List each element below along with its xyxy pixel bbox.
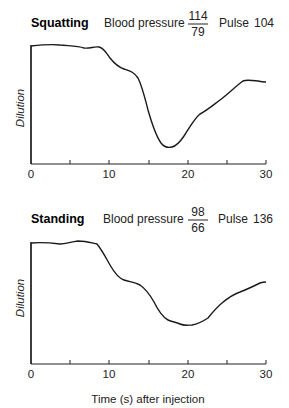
- bp-label: Blood pressure: [104, 16, 185, 30]
- dilution-curve-standing: [31, 241, 266, 364]
- x-ticks: [70, 360, 266, 364]
- panel-title: Standing: [31, 212, 84, 226]
- x-axis-label: Time (s) after injection: [91, 393, 204, 405]
- panel-squatting: Squatting Blood pressure 114 79 Pulse 10…: [14, 9, 274, 180]
- x-ticks: [70, 160, 266, 164]
- bp-systolic: 114: [188, 9, 207, 23]
- tick-label: 0: [28, 368, 34, 380]
- tick-label: 0: [28, 168, 34, 180]
- tick-label: 20: [182, 368, 195, 380]
- pulse-label: Pulse: [219, 16, 249, 30]
- tick-label: 10: [103, 168, 116, 180]
- dilution-curve-squatting: [31, 45, 266, 164]
- bp-diastolic: 79: [191, 25, 205, 39]
- y-axis-label: Dilution: [14, 279, 26, 317]
- bp-diastolic: 66: [191, 221, 205, 235]
- panel-title: Squatting: [31, 16, 89, 30]
- tick-label: 10: [103, 368, 116, 380]
- bp-label: Blood pressure: [103, 212, 184, 226]
- figure: Squatting Blood pressure 114 79 Pulse 10…: [0, 0, 289, 408]
- pulse-value: 104: [254, 16, 274, 30]
- pulse-label: Pulse: [218, 212, 248, 226]
- tick-label: 20: [182, 168, 195, 180]
- tick-label: 30: [260, 368, 273, 380]
- bp-systolic: 98: [191, 205, 205, 219]
- panel-standing: Standing Blood pressure 98 66 Pulse 136 …: [14, 205, 273, 380]
- y-axis-label: Dilution: [14, 89, 26, 127]
- pulse-value: 136: [253, 212, 273, 226]
- tick-label: 30: [260, 168, 273, 180]
